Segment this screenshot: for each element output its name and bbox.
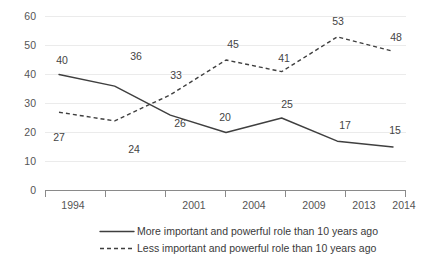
x-axis-ticks bbox=[46, 191, 406, 197]
data-labels-solid: 40 36 26 20 25 17 15 bbox=[56, 50, 401, 136]
line-chart: 60 50 40 30 20 10 0 1994 2001 2004 2009 … bbox=[0, 0, 441, 266]
data-label-solid-3: 20 bbox=[219, 111, 231, 123]
y-axis-labels: 60 50 40 30 20 10 0 bbox=[24, 10, 36, 196]
x-tick-label-2014: 2014 bbox=[392, 199, 416, 211]
legend-item-more-important[interactable]: More important and powerful role than 10… bbox=[100, 225, 378, 237]
data-label-solid-5: 17 bbox=[339, 119, 351, 131]
legend: More important and powerful role than 10… bbox=[100, 225, 378, 254]
x-tick-label-2009: 2009 bbox=[302, 199, 326, 211]
gridlines bbox=[45, 17, 406, 162]
legend-label-more-important: More important and powerful role than 10… bbox=[137, 225, 378, 237]
y-tick-0: 0 bbox=[30, 184, 36, 196]
x-axis-labels: 1994 2001 2004 2009 2013 2014 bbox=[61, 199, 416, 211]
legend-item-less-important[interactable]: Less important and powerful role than 10… bbox=[100, 242, 376, 254]
data-label-dashed-6: 48 bbox=[390, 31, 402, 43]
legend-label-less-important: Less important and powerful role than 10… bbox=[137, 242, 376, 254]
data-label-dashed-3: 45 bbox=[227, 38, 239, 50]
data-label-dashed-4: 41 bbox=[278, 52, 290, 64]
data-label-dashed-2: 33 bbox=[170, 69, 182, 81]
data-labels-dashed: 27 24 33 45 41 53 48 bbox=[53, 15, 402, 155]
data-label-solid-1: 36 bbox=[130, 50, 142, 62]
data-label-dashed-0: 27 bbox=[53, 131, 65, 143]
x-tick-label-2004: 2004 bbox=[242, 199, 266, 211]
y-tick-20: 20 bbox=[24, 126, 36, 138]
x-tick-label-2001: 2001 bbox=[182, 199, 206, 211]
x-tick-label-1994: 1994 bbox=[61, 199, 85, 211]
y-tick-60: 60 bbox=[24, 10, 36, 22]
y-tick-50: 50 bbox=[24, 39, 36, 51]
y-tick-30: 30 bbox=[24, 97, 36, 109]
x-tick-label-2013: 2013 bbox=[352, 199, 376, 211]
chart-container: 60 50 40 30 20 10 0 1994 2001 2004 2009 … bbox=[0, 0, 441, 266]
data-label-dashed-5: 53 bbox=[332, 15, 344, 27]
series-line-less-important bbox=[59, 37, 393, 121]
data-label-solid-0: 40 bbox=[56, 54, 68, 66]
data-label-solid-2: 26 bbox=[174, 117, 186, 129]
data-label-solid-6: 15 bbox=[389, 124, 401, 136]
data-label-dashed-1: 24 bbox=[128, 143, 140, 155]
y-tick-10: 10 bbox=[24, 155, 36, 167]
y-tick-40: 40 bbox=[24, 68, 36, 80]
data-label-solid-4: 25 bbox=[281, 98, 293, 110]
